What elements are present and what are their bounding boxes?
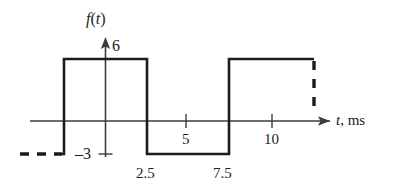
x-label-2-5: 2.5 [136, 166, 155, 181]
x-label-10: 10 [264, 132, 279, 147]
waveform-plot-svg [0, 0, 400, 196]
x-label-7-5: 7.5 [213, 166, 232, 181]
y-label-minus-3: –3 [75, 146, 91, 162]
x-label-5: 5 [182, 132, 190, 147]
y-axis [101, 37, 110, 157]
x-axis [30, 116, 330, 126]
y-label-6: 6 [112, 38, 120, 54]
function-label-paren-close: ) [100, 10, 105, 27]
x-axis-label-units: , ms [340, 112, 365, 128]
function-label: f(t) [86, 11, 106, 27]
waveform-figure: f(t) 6 –3 2.5 7.5 5 10 t, ms [0, 0, 400, 196]
x-axis-label: t, ms [336, 113, 365, 128]
